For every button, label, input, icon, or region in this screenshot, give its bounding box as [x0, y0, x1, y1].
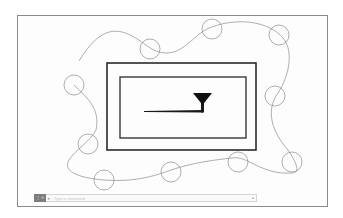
- circle[interactable]: [269, 25, 289, 45]
- circle[interactable]: [78, 134, 98, 154]
- spline-curve[interactable]: [67, 22, 296, 181]
- weld-symbol-icon[interactable]: [144, 93, 212, 113]
- circles-group: [64, 19, 302, 190]
- inner-rectangle[interactable]: [120, 77, 246, 138]
- command-line-options-button[interactable]: ⋮✕: [34, 194, 46, 202]
- circle[interactable]: [282, 152, 302, 172]
- circle[interactable]: [140, 39, 160, 59]
- command-input[interactable]: [52, 195, 250, 201]
- circle[interactable]: [228, 152, 248, 172]
- circle[interactable]: [161, 162, 181, 182]
- circle[interactable]: [202, 19, 222, 39]
- command-history-arrow-icon[interactable]: ▲: [250, 195, 256, 201]
- close-icon: ⋮✕: [36, 196, 44, 200]
- outer-rectangle[interactable]: [107, 63, 256, 150]
- drawing-area[interactable]: [0, 0, 343, 218]
- command-line[interactable]: ⋮✕ ▸ ▲: [34, 194, 257, 202]
- circle[interactable]: [265, 86, 285, 106]
